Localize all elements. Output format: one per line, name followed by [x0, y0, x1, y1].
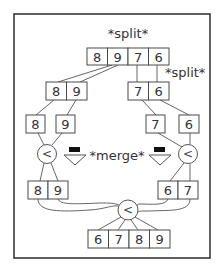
comparator-right: <: [179, 145, 198, 164]
cell-value: 6: [94, 232, 102, 247]
array-level2-left: 8 9: [46, 82, 87, 100]
less-than-icon: <: [183, 147, 193, 161]
comparator-left: <: [38, 145, 57, 164]
array-bottom: 6 7 8 9: [88, 230, 170, 248]
cell-value: 6: [164, 183, 172, 198]
cell-value: 9: [61, 117, 69, 132]
merge-sort-diagram: *split* *split*: [0, 0, 220, 274]
merge-label: *merge*: [89, 148, 145, 163]
split-label-top: *split*: [108, 26, 149, 41]
less-than-icon: <: [123, 203, 133, 217]
cell-value: 8: [31, 117, 39, 132]
cell-value: 6: [155, 84, 163, 99]
array-level4-left: 8 9: [28, 181, 68, 199]
cell-value: 6: [185, 117, 193, 132]
cell-value: 6: [155, 50, 163, 65]
cell-value: 7: [151, 117, 159, 132]
cell-value: 7: [134, 84, 142, 99]
cell-value: 7: [184, 183, 192, 198]
cell-value: 9: [156, 232, 164, 247]
cell-value: 8: [135, 232, 143, 247]
array-top: 8 9 7 6: [87, 48, 169, 65]
array-level2-right: 7 6: [128, 82, 169, 100]
cell-value: 8: [93, 50, 101, 65]
cell-value: 7: [134, 50, 142, 65]
cell-value: 9: [54, 183, 62, 198]
cell-value: 7: [115, 232, 123, 247]
cell-value: 9: [73, 84, 81, 99]
split-label-side: *split*: [165, 65, 206, 80]
less-than-icon: <: [42, 147, 52, 161]
comparator-bottom: <: [118, 200, 138, 220]
cell-value: 8: [34, 183, 42, 198]
cell-value: 9: [114, 50, 122, 65]
cell-value: 8: [52, 84, 60, 99]
array-level4-right: 6 7: [158, 181, 198, 199]
